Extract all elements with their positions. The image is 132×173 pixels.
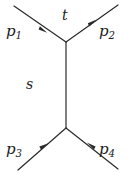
- momentum-label-p2-sub: 2: [109, 30, 115, 41]
- arrowhead-p3-icon: [39, 143, 48, 150]
- arrowhead-p2-icon: [88, 20, 97, 27]
- momentum-label-p1: p1: [6, 24, 22, 41]
- feynman-diagram: p1 p2 p3 p4 t s: [0, 0, 132, 173]
- momentum-label-p1-sub: 1: [16, 30, 22, 41]
- leg-line-p3: [18, 128, 66, 170]
- mandelstam-label-s: s: [26, 77, 33, 91]
- momentum-label-p1-base: p: [6, 22, 16, 40]
- momentum-label-p4-base: p: [99, 140, 109, 158]
- arrowhead-p1-icon: [39, 26, 48, 33]
- momentum-label-p3: p3: [6, 142, 22, 159]
- momentum-label-p4-sub: 4: [109, 148, 115, 159]
- momentum-label-p2-base: p: [99, 22, 109, 40]
- momentum-label-p4: p4: [99, 142, 115, 159]
- momentum-label-p3-base: p: [6, 140, 16, 158]
- momentum-label-p2: p2: [99, 24, 115, 41]
- momentum-label-p3-sub: 3: [16, 148, 22, 159]
- mandelstam-label-t: t: [62, 8, 68, 22]
